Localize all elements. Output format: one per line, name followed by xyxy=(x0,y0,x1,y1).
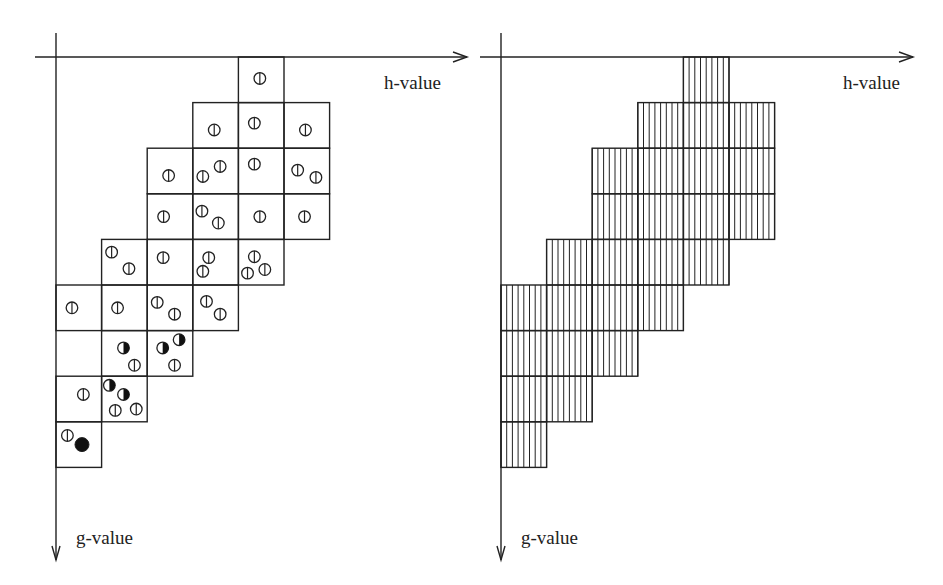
grid-cell xyxy=(102,285,148,331)
right-h-axis-label: h-value xyxy=(843,72,900,94)
grid-cell xyxy=(193,239,239,285)
diagram-stage: h-value g-value h-value g-value xyxy=(0,0,943,585)
grid-cell xyxy=(284,148,330,194)
grid-cell xyxy=(56,285,102,331)
diagram-canvas xyxy=(0,0,943,585)
grid-cell xyxy=(238,103,284,149)
left-g-axis-label: g-value xyxy=(76,527,133,549)
grid-cell xyxy=(238,148,284,194)
grid-cell xyxy=(147,239,193,285)
closed-node-icon xyxy=(75,438,89,452)
grid-cell xyxy=(193,285,239,331)
grid-cell xyxy=(102,239,148,285)
right-g-axis-label: g-value xyxy=(521,527,578,549)
left-h-axis-label: h-value xyxy=(384,72,441,94)
